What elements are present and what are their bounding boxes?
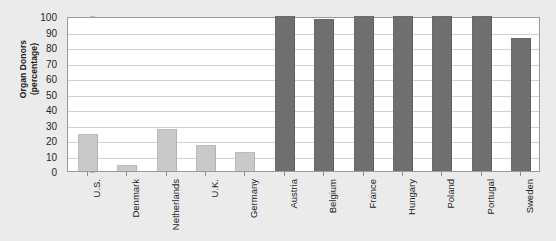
x-tick-label: Poland bbox=[445, 179, 456, 209]
x-tick-mark bbox=[481, 172, 482, 176]
y-tick-label: 90 bbox=[46, 27, 57, 38]
x-axis: U.S.DenmarkNetherlandsU.K.GermanyAustria… bbox=[67, 172, 540, 241]
y-tick-label: 100 bbox=[40, 12, 57, 23]
x-tick-label: U.K. bbox=[209, 179, 220, 197]
x-tick-mark bbox=[520, 172, 521, 176]
y-tick-label: 10 bbox=[46, 151, 57, 162]
y-tick-label: 0 bbox=[51, 167, 57, 178]
bar-poland bbox=[432, 16, 452, 171]
x-tick-mark bbox=[363, 172, 364, 176]
bar-belgium bbox=[314, 19, 334, 171]
x-tick-label: France bbox=[367, 179, 378, 209]
bar-portugal bbox=[472, 16, 492, 171]
bar-u-k bbox=[196, 145, 216, 171]
x-tick-mark bbox=[205, 172, 206, 176]
x-tick-mark bbox=[87, 172, 88, 176]
bar-germany bbox=[235, 152, 255, 171]
bars bbox=[68, 18, 539, 171]
x-tick-label: Hungary bbox=[406, 179, 417, 215]
y-tick-label: 40 bbox=[46, 105, 57, 116]
bar-u-s bbox=[78, 134, 98, 171]
y-tick-label: 70 bbox=[46, 58, 57, 69]
x-tick-mark bbox=[166, 172, 167, 176]
x-tick-label: Belgium bbox=[327, 179, 338, 213]
x-tick-label: Germany bbox=[248, 179, 259, 218]
x-tick-label: Sweden bbox=[524, 179, 535, 213]
x-tick-label: U.S. bbox=[91, 179, 102, 197]
x-tick-mark bbox=[441, 172, 442, 176]
bar-denmark bbox=[117, 165, 137, 171]
x-tick-mark bbox=[402, 172, 403, 176]
x-tick-label: Portugal bbox=[485, 179, 496, 214]
y-tick-label: 30 bbox=[46, 120, 57, 131]
y-tick-label: 80 bbox=[46, 43, 57, 54]
x-tick-label: Austria bbox=[288, 179, 299, 209]
bar-hungary bbox=[393, 16, 413, 171]
bar-austria bbox=[275, 16, 295, 171]
x-tick-mark bbox=[244, 172, 245, 176]
bar-france bbox=[354, 16, 374, 171]
y-tick-label: 20 bbox=[46, 136, 57, 147]
x-tick-mark bbox=[126, 172, 127, 176]
y-tick-label: 50 bbox=[46, 89, 57, 100]
x-tick-label: Netherlands bbox=[170, 179, 181, 230]
bar-netherlands bbox=[157, 129, 177, 171]
y-axis-tick-labels: 0102030405060708090100 bbox=[28, 17, 62, 172]
y-tick-label: 60 bbox=[46, 74, 57, 85]
plot-area bbox=[67, 17, 540, 172]
x-tick-mark bbox=[284, 172, 285, 176]
x-tick-label: Denmark bbox=[130, 179, 141, 218]
x-tick-mark bbox=[323, 172, 324, 176]
bar-chart: Organ Donors (percentage) 01020304050607… bbox=[0, 0, 556, 241]
bar-sweden bbox=[511, 38, 531, 171]
